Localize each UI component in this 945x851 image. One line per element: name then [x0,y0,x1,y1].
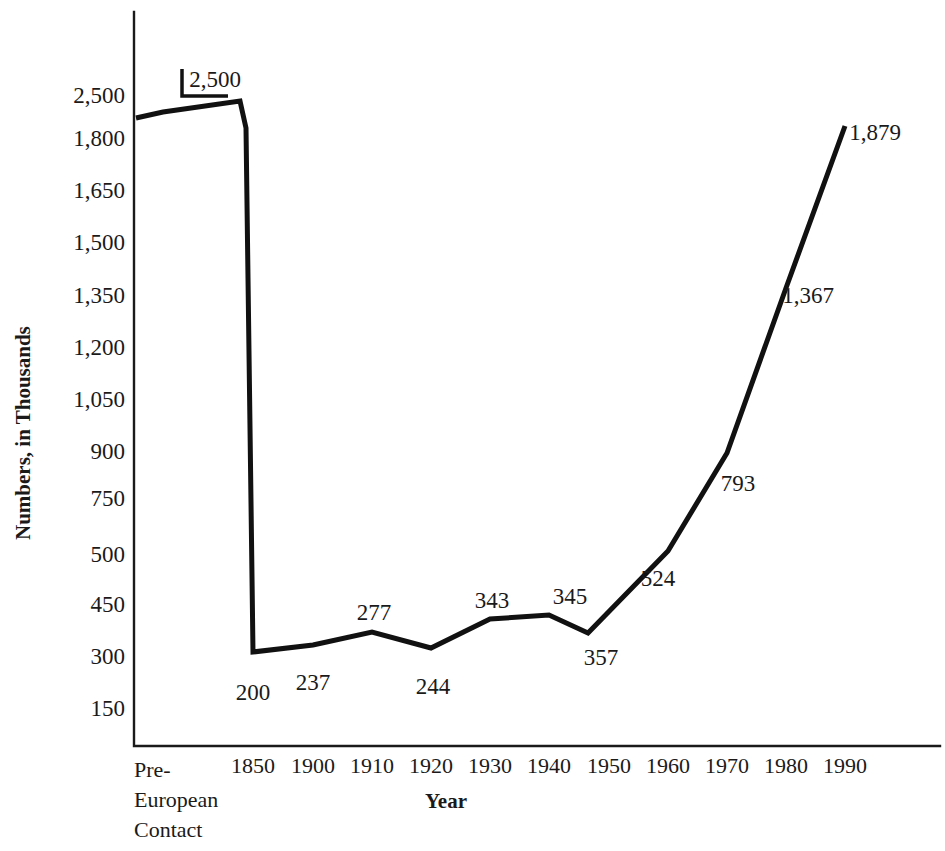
point-label-343: 343 [475,588,510,613]
ytick-label-300: 300 [91,644,126,669]
xtick-label-1930: 1930 [468,753,512,778]
xtick-label-1920: 1920 [409,753,453,778]
point-label-244: 244 [416,674,451,699]
point-label-793: 793 [721,471,756,496]
point-label-357: 357 [584,645,619,670]
ytick-label-900: 900 [91,439,126,464]
point-label-200: 200 [236,680,271,705]
point-label-2500: 2,500 [189,67,241,92]
point-label-277: 277 [357,600,392,625]
point-label-237: 237 [296,670,331,695]
ytick-label-1200: 1,200 [73,335,125,360]
line-chart: 2,500 1,800 1,650 1,500 1,350 1,200 1,05… [0,0,945,851]
x-axis-title: Year [425,789,467,813]
ytick-label-1650: 1,650 [73,178,125,203]
ytick-label-1050: 1,050 [73,387,125,412]
ytick-label-1800: 1,800 [73,126,125,151]
xtick-label-1980: 1980 [764,753,808,778]
ytick-label-150: 150 [91,696,126,721]
xtick-label-1900: 1900 [291,753,335,778]
ytick-label-2500: 2,500 [73,83,125,108]
xtick-label-1960: 1960 [646,753,690,778]
xtick-label-1950: 1950 [587,753,631,778]
ytick-label-1350: 1,350 [73,283,125,308]
chart-figure: 2,500 1,800 1,650 1,500 1,350 1,200 1,05… [0,0,945,851]
xtick-label-1910: 1910 [350,753,394,778]
xtick-label-1970: 1970 [705,753,749,778]
xtick-label-1940: 1940 [527,753,571,778]
xtick-label-1990: 1990 [823,753,867,778]
xtick-label-pre-line2: European [134,787,218,812]
xtick-label-1850: 1850 [231,753,275,778]
point-label-345: 345 [553,584,588,609]
point-label-1879: 1,879 [849,120,901,145]
data-line [136,101,845,652]
point-label-524: 524 [641,566,676,591]
xtick-label-pre-line3: Contact [134,817,202,842]
xtick-label-pre-line1: Pre- [134,757,171,782]
ytick-label-1500: 1,500 [73,230,125,255]
ytick-label-500: 500 [91,542,126,567]
point-label-1367: 1,367 [782,283,834,308]
ytick-label-750: 750 [91,486,126,511]
y-axis-title: Numbers, in Thousands [11,326,35,540]
ytick-label-450: 450 [91,592,126,617]
